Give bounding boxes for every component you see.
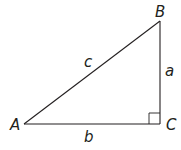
side-label-c: c: [84, 53, 93, 71]
right-triangle-diagram: B C A c a b: [0, 0, 181, 150]
side-label-b: b: [84, 128, 94, 146]
side-label-a: a: [165, 62, 174, 80]
vertex-label-a: A: [9, 116, 20, 134]
right-angle-marker: [149, 113, 160, 124]
vertex-label-c: C: [166, 116, 177, 134]
triangle: [24, 21, 160, 124]
vertex-label-b: B: [155, 3, 165, 21]
side-c-line: [24, 21, 160, 124]
